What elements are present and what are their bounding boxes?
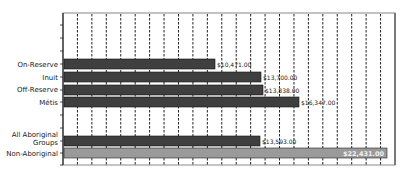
category-label-inuit: Inuit (42, 74, 58, 82)
category-label-on-reserve: On-Reserve (17, 61, 58, 69)
horizontal-bar-chart: $10,471.00 $13,700.00 $13,838.00 $16,347… (0, 0, 410, 180)
bar-metis (64, 97, 299, 107)
category-label-off-reserve: Off-Reserve (17, 86, 58, 94)
category-label-all-aboriginal-2: Groups (33, 139, 58, 147)
bar-off-reserve (64, 85, 263, 95)
bar-on-reserve (64, 59, 215, 69)
category-label-all-aboriginal-1: All Aboriginal (12, 131, 58, 139)
category-label-non-aboriginal: Non-Aboriginal (6, 150, 58, 158)
value-label-metis: $16,347.00 (301, 99, 336, 106)
value-label-inuit: $13,700.00 (263, 74, 298, 81)
bar-all-aboriginal (64, 136, 260, 146)
value-label-on-reserve: $10,471.00 (217, 61, 252, 68)
value-label-off-reserve: $13,838.00 (265, 87, 300, 94)
value-label-non-aboriginal: $22,431.00 (343, 150, 385, 158)
value-label-all-aboriginal: $13,593.00 (262, 138, 297, 145)
category-label-metis: Métis (39, 99, 58, 107)
bar-non-aboriginal (64, 148, 387, 158)
bar-inuit (64, 72, 261, 82)
